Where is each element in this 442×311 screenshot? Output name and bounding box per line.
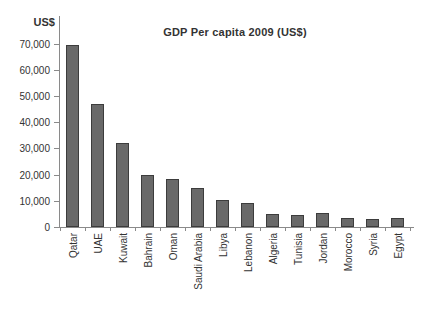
bar [291,215,304,227]
bar [266,214,279,227]
x-tick-mark [60,228,61,231]
x-tick-mark [210,228,211,231]
x-tick-mark [160,228,161,231]
category-label: Lebanon [243,233,254,272]
category-label: UAE [93,233,104,254]
category-label: Libya [218,233,229,257]
category-label: Egypt [393,233,404,259]
bar [366,219,379,227]
x-tick-mark [360,228,361,231]
y-tick-mark [54,148,60,149]
y-tick-label: 0 [10,222,50,233]
y-tick-label: 20,000 [10,170,50,181]
x-tick-mark [385,228,386,231]
y-tick-label: 50,000 [10,91,50,102]
bar [191,188,204,227]
x-tick-mark [235,228,236,231]
category-label: Bahrain [143,233,154,267]
y-tick-mark [54,122,60,123]
y-tick-mark [54,175,60,176]
x-tick-mark [110,228,111,231]
x-tick-mark [285,228,286,231]
bar [216,200,229,227]
x-tick-mark [310,228,311,231]
category-label: Tunisia [293,233,304,265]
bar [66,45,79,227]
gdp-bar-chart: US$ GDP Per capita 2009 (US$) 010,00020,… [0,0,442,311]
bar [316,213,329,227]
y-tick-mark [54,96,60,97]
y-axis-unit-label: US$ [14,16,55,28]
bar [341,218,354,227]
bar [391,218,404,227]
x-tick-mark [85,228,86,231]
category-label: Jordan [318,233,329,264]
x-tick-mark [185,228,186,231]
category-label: Morocco [343,233,354,271]
bar [166,179,179,227]
bar [141,175,154,227]
bar [116,143,129,227]
x-tick-mark [260,228,261,231]
y-tick-label: 40,000 [10,117,50,128]
y-tick-label: 60,000 [10,65,50,76]
category-label: Syria [368,233,379,256]
chart-title: GDP Per capita 2009 (US$) [110,26,360,38]
category-label: Saudi Arabia [193,233,204,290]
bar [241,203,254,227]
x-tick-mark [135,228,136,231]
y-tick-label: 70,000 [10,39,50,50]
bar [91,104,104,227]
category-label: Qatar [68,233,79,258]
x-tick-mark [410,228,411,231]
y-tick-label: 10,000 [10,196,50,207]
y-tick-mark [54,201,60,202]
y-tick-mark [54,70,60,71]
y-tick-label: 30,000 [10,143,50,154]
x-tick-mark [335,228,336,231]
y-tick-mark [54,44,60,45]
category-label: Algeria [268,233,279,264]
category-label: Kuwait [118,233,129,263]
category-label: Oman [168,233,179,260]
